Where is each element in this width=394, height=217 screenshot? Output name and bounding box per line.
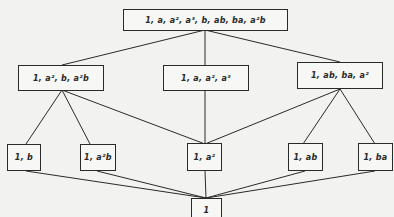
node-bottom-label: 1 <box>204 206 210 215</box>
node-top-label: 1, a, a², a³, b, ab, ba, a²b <box>145 16 266 25</box>
node-low-ba-label: 1, ba <box>363 153 387 162</box>
edge-mid-right-low-ab <box>303 89 340 144</box>
node-mid-right: 1, ab, ba, a² <box>297 62 383 89</box>
edge-mid-left-low-a2b <box>62 90 90 144</box>
node-low-ab-label: 1, ab <box>293 153 317 162</box>
edge-mid-left-low-b <box>26 90 62 144</box>
node-top: 1, a, a², a³, b, ab, ba, a²b <box>123 9 288 31</box>
node-low-ab: 1, ab <box>288 143 323 171</box>
edge-top-mid-left <box>62 30 205 65</box>
node-mid-right-label: 1, ab, ba, a² <box>311 71 369 80</box>
node-mid-center-label: 1, a, a², a³ <box>181 74 231 83</box>
edge-top-mid-right <box>205 30 340 62</box>
edge-low-a2-bottom <box>205 171 206 198</box>
node-bottom: 1 <box>191 198 222 217</box>
lattice-edges <box>0 0 394 217</box>
node-low-a2b: 1, a²b <box>80 144 116 171</box>
node-mid-left-label: 1, a², b, a²b <box>33 74 89 83</box>
node-low-a2-label: 1, a² <box>194 153 216 162</box>
node-mid-left: 1, a², b, a²b <box>18 65 104 91</box>
node-low-a2: 1, a² <box>187 143 222 171</box>
edge-low-b-bottom <box>26 171 206 198</box>
edge-mid-right-low-ba <box>340 89 375 144</box>
edge-mid-right-low-a2 <box>205 89 340 144</box>
node-mid-center: 1, a, a², a³ <box>163 65 249 91</box>
edge-mid-left-low-a2 <box>62 90 205 144</box>
node-low-a2b-label: 1, a²b <box>84 153 112 162</box>
node-low-b-label: 1, b <box>15 153 33 162</box>
node-low-ba: 1, ba <box>358 143 393 171</box>
node-low-b: 1, b <box>7 144 41 171</box>
